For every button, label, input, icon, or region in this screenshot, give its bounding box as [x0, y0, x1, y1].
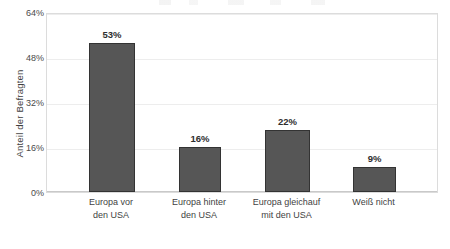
bars-layer: 53%16%22%9% — [47, 14, 437, 192]
bar-value-label: 22% — [251, 116, 324, 127]
bar-group: 9% — [353, 14, 396, 192]
bar[interactable] — [265, 130, 310, 192]
y-tick-label: 48% — [12, 53, 44, 63]
y-tick-label: 0% — [12, 188, 44, 198]
bar-chart: Anteil der Befragten 0%16%32%48%64% 53%1… — [0, 0, 450, 249]
y-tick-label: 32% — [12, 98, 44, 108]
y-axis-tick-labels: 0%16%32%48%64% — [8, 0, 44, 249]
cropped-title-remnant — [150, 0, 380, 5]
bar[interactable] — [353, 167, 396, 192]
bar-group: 22% — [265, 14, 310, 192]
bar-group: 53% — [89, 14, 135, 192]
x-category-label-line: mit den USA — [232, 209, 342, 222]
y-tick-label: 16% — [12, 143, 44, 153]
plot-area: 53%16%22%9% — [46, 13, 438, 193]
x-axis-category-labels: Europa vorden USAEuropa hinterden USAEur… — [46, 196, 438, 246]
y-tick-label: 64% — [12, 8, 44, 18]
bar-value-label: 9% — [339, 153, 410, 164]
bar-group: 16% — [179, 14, 221, 192]
bar-value-label: 16% — [165, 133, 235, 144]
x-category-label: Weiß nicht — [319, 196, 429, 209]
bar[interactable] — [179, 147, 221, 192]
bar[interactable] — [89, 43, 135, 192]
bar-value-label: 53% — [75, 29, 149, 40]
x-category-label-line: Weiß nicht — [319, 196, 429, 209]
